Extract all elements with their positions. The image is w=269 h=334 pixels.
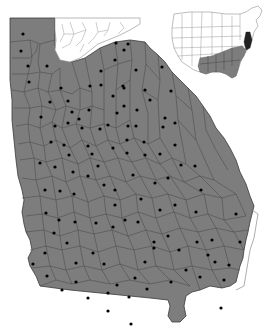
county-dot — [169, 280, 172, 283]
county-dot — [88, 84, 91, 87]
county-dot — [161, 125, 164, 128]
county-dot — [86, 174, 89, 177]
county-dot — [91, 251, 94, 254]
county-dot — [72, 192, 75, 195]
county-dot — [173, 121, 176, 124]
county-dot — [90, 152, 93, 155]
county-dot — [113, 58, 116, 61]
county-dot — [39, 115, 42, 118]
county-dot — [153, 181, 156, 184]
county-dot — [71, 170, 74, 173]
county-dot — [126, 42, 129, 45]
county-dot — [65, 241, 68, 244]
county-dot — [102, 183, 105, 186]
county-dot — [53, 124, 56, 127]
county-dot — [238, 240, 241, 243]
county-dot — [86, 296, 89, 299]
county-dot — [96, 164, 99, 167]
county-dot — [123, 218, 126, 221]
county-dot — [38, 161, 41, 164]
us-inset-map — [172, 6, 262, 78]
county-dot — [45, 274, 48, 277]
county-dot — [98, 127, 101, 130]
county-dot — [198, 275, 201, 278]
county-dot — [143, 153, 146, 156]
county-dot — [106, 123, 109, 126]
county-dot — [58, 189, 61, 192]
county-dot — [163, 116, 166, 119]
county-dot — [210, 238, 213, 241]
county-dot — [115, 283, 118, 286]
county-dot — [142, 140, 145, 143]
county-dot — [135, 108, 138, 111]
county-dot — [145, 287, 148, 290]
county-dot — [70, 110, 73, 113]
county-dot — [106, 309, 109, 312]
county-dot — [27, 80, 30, 83]
county-dot — [87, 108, 90, 111]
county-dot — [173, 143, 176, 146]
county-dot — [43, 251, 46, 254]
county-dot — [74, 280, 77, 283]
county-dot — [99, 69, 102, 72]
county-dot — [77, 117, 80, 120]
county-dot — [158, 208, 161, 211]
county-dot — [19, 49, 22, 52]
county-dot — [94, 221, 97, 224]
county-dot — [102, 262, 105, 265]
county-dot — [166, 176, 169, 179]
county-dot — [134, 124, 137, 127]
county-dot — [160, 65, 163, 68]
county-dot — [111, 94, 114, 97]
county-dot — [136, 220, 139, 223]
county-dot — [122, 104, 125, 107]
county-dot — [74, 261, 77, 264]
county-dot — [133, 276, 136, 279]
county-dot — [31, 262, 34, 265]
county-dot — [73, 220, 76, 223]
county-dot — [114, 41, 117, 44]
county-dot — [158, 152, 161, 155]
county-dot — [43, 188, 46, 191]
county-dot — [21, 32, 24, 35]
county-dot — [193, 164, 196, 167]
county-dot — [125, 151, 128, 154]
county-dot — [57, 218, 60, 221]
county-dot — [152, 246, 155, 249]
county-dot — [67, 153, 70, 156]
county-dot — [222, 278, 225, 281]
county-dot — [129, 322, 132, 325]
county-dot — [195, 240, 198, 243]
county-dot — [62, 143, 65, 146]
county-dot — [131, 173, 134, 176]
county-dot — [199, 188, 202, 191]
county-dot — [113, 188, 116, 191]
county-dot — [134, 68, 137, 71]
county-dot — [53, 165, 56, 168]
county-dot — [177, 248, 180, 251]
county-dot — [111, 225, 114, 228]
county-dot — [143, 88, 146, 91]
county-dot — [106, 291, 109, 294]
county-dot — [26, 64, 29, 67]
county-dot — [111, 146, 114, 149]
county-dot — [45, 64, 48, 67]
county-dot — [219, 306, 222, 309]
county-dot — [213, 260, 216, 263]
county-dot — [194, 210, 197, 213]
county-dot — [234, 212, 237, 215]
county-dot — [66, 99, 69, 102]
county-dot — [206, 253, 209, 256]
county-dot — [173, 203, 176, 206]
county-dot — [99, 83, 102, 86]
county-dot — [166, 234, 169, 237]
county-dot — [139, 197, 142, 200]
county-dot — [60, 288, 63, 291]
county-dot — [52, 231, 55, 234]
county-dot — [152, 240, 155, 243]
county-dot — [127, 295, 130, 298]
county-dot — [122, 48, 125, 51]
georgia-county-map — [0, 0, 269, 334]
county-dot — [179, 163, 182, 166]
county-dot — [49, 140, 52, 143]
